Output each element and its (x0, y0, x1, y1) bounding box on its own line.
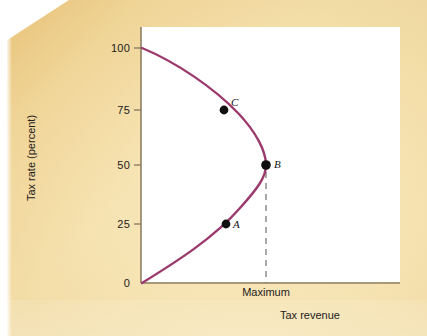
y-tick-label-50: 50 (102, 159, 130, 171)
y-tick-label-0: 0 (102, 277, 130, 289)
data-point-c (220, 106, 229, 115)
y-axis-title: Tax rate (percent) (25, 83, 37, 233)
y-tick-label-75: 75 (102, 104, 130, 116)
x-axis-maximum-label: Maximum (196, 286, 336, 298)
laffer-curve-path (142, 48, 266, 283)
y-tick-label-100: 100 (102, 42, 130, 54)
data-point-b (261, 160, 271, 170)
figure-page: 100 75 50 25 0 Tax rate (percent) Maximu… (0, 0, 427, 336)
point-label-b: B (274, 158, 281, 170)
laffer-curve-figure: 100 75 50 25 0 Tax rate (percent) Maximu… (0, 0, 427, 336)
point-label-c: C (231, 96, 238, 108)
y-tick-label-25: 25 (102, 218, 130, 230)
data-point-a (222, 220, 231, 229)
point-label-a: A (233, 218, 240, 230)
x-axis-title: Tax revenue (280, 309, 410, 321)
